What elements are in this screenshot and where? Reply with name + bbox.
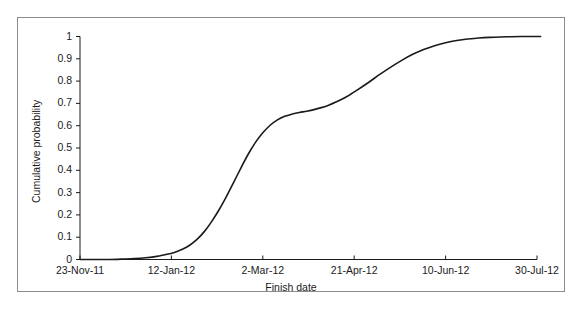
y-tick-label: 0.9 — [18, 52, 72, 64]
y-tick-label: 0.3 — [18, 186, 72, 198]
y-tick-label: 0.5 — [18, 141, 72, 153]
y-tick-label: 1 — [18, 30, 72, 42]
y-tick-label: 0.8 — [18, 74, 72, 86]
y-axis-title: Cumulative probability — [30, 100, 42, 203]
cumulative-probability-curve — [80, 36, 541, 259]
x-tick-label: 12-Jan-12 — [126, 264, 216, 276]
x-axis-title: Finish date — [18, 281, 564, 293]
x-tick-label: 10-Jun-12 — [401, 264, 491, 276]
y-tick-label: 0.1 — [18, 230, 72, 242]
x-tick-label: 30-Jul-12 — [492, 264, 579, 276]
y-tick-label: 0.7 — [18, 96, 72, 108]
y-tick-label: 0.2 — [18, 208, 72, 220]
figure-canvas: 00.10.20.30.40.50.60.70.80.91 23-Nov-111… — [0, 0, 579, 309]
y-tick-label: 0.4 — [18, 163, 72, 175]
y-tick-label: 0.6 — [18, 119, 72, 131]
plot-area — [18, 18, 564, 291]
y-axis-ticks — [76, 37, 80, 260]
x-tick-label: 2-Mar-12 — [218, 264, 308, 276]
x-tick-label: 23-Nov-11 — [35, 264, 125, 276]
chart-frame: 00.10.20.30.40.50.60.70.80.91 23-Nov-111… — [17, 17, 565, 292]
x-tick-label: 21-Apr-12 — [309, 264, 399, 276]
